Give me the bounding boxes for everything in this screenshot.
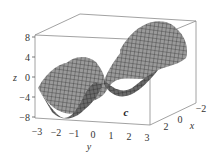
y-tick-label: 2 [127,131,132,142]
y-tick-label: 3 [145,132,150,143]
y-tick-label: −1 [69,128,80,139]
y-tick-label: −3 [32,126,43,137]
panel-label: c [124,106,129,118]
z-axis-label: z [12,72,17,83]
x-tick-label: 0 [178,114,183,125]
x-tick-label: 2 [164,121,169,132]
z-tick-label: 4 [25,52,30,63]
y-axis-label: y [86,141,92,152]
z-tick-label: −8 [19,112,30,123]
x-axis-label: x [189,120,195,131]
x-tick-label: −2 [196,103,207,114]
z-tick-label: 8 [25,32,30,43]
z-tick-label: 0 [25,72,30,83]
z-axis: 8 4 0 −4 −8 z [12,32,35,123]
x-axis: 2 0 −2 x [164,103,207,132]
y-tick-label: 0 [91,129,96,140]
y-tick-label: −2 [51,127,62,138]
z-tick-label: −4 [19,92,30,103]
surface-plot: 8 4 0 −4 −8 z −3 −2 −1 0 1 2 3 y 2 0 −2 … [0,0,212,155]
y-tick-label: 1 [109,130,114,141]
y-axis: −3 −2 −1 0 1 2 3 y [32,126,150,152]
